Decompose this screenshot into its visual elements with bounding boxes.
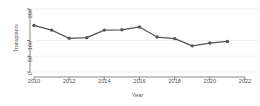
y-axis-tick-label-text: 100 xyxy=(25,41,35,50)
axes xyxy=(27,9,245,80)
y-axis-title: Transplants xyxy=(9,2,23,74)
series-line-transplants xyxy=(34,25,227,45)
data-point-marker xyxy=(138,25,141,28)
data-point-marker xyxy=(85,36,88,39)
x-axis-tick-label: 2014 xyxy=(93,78,115,84)
chart-plot-area xyxy=(0,0,260,106)
x-axis-tick-label: 2012 xyxy=(58,78,80,84)
data-point-marker xyxy=(191,44,194,47)
data-point-marker xyxy=(103,28,106,31)
data-point-marker xyxy=(50,28,53,31)
data-point-marker xyxy=(173,37,176,40)
x-axis-tick-label: 2022 xyxy=(234,78,256,84)
data-point-marker xyxy=(120,28,123,31)
x-axis-tick-label: 2010 xyxy=(23,78,45,84)
x-axis-title: Year xyxy=(30,92,245,98)
x-axis-tick-label: 2020 xyxy=(199,78,221,84)
y-axis-tick-label-text: 50 xyxy=(25,56,35,62)
chart-container: 050100200 2010201220142016201820202022 T… xyxy=(0,0,260,106)
data-point-marker xyxy=(226,40,229,43)
data-point-marker xyxy=(155,35,158,38)
data-series-transplants xyxy=(32,24,229,48)
data-point-marker xyxy=(32,24,35,27)
gridlines xyxy=(34,9,258,72)
x-axis-tick-label: 2016 xyxy=(129,78,151,84)
data-point-marker xyxy=(67,37,70,40)
y-axis-tick-label-text: 200 xyxy=(25,9,35,18)
data-point-marker xyxy=(208,41,211,44)
y-axis-tick-label-text: 0 xyxy=(25,72,35,75)
x-axis-tick-label: 2018 xyxy=(164,78,186,84)
